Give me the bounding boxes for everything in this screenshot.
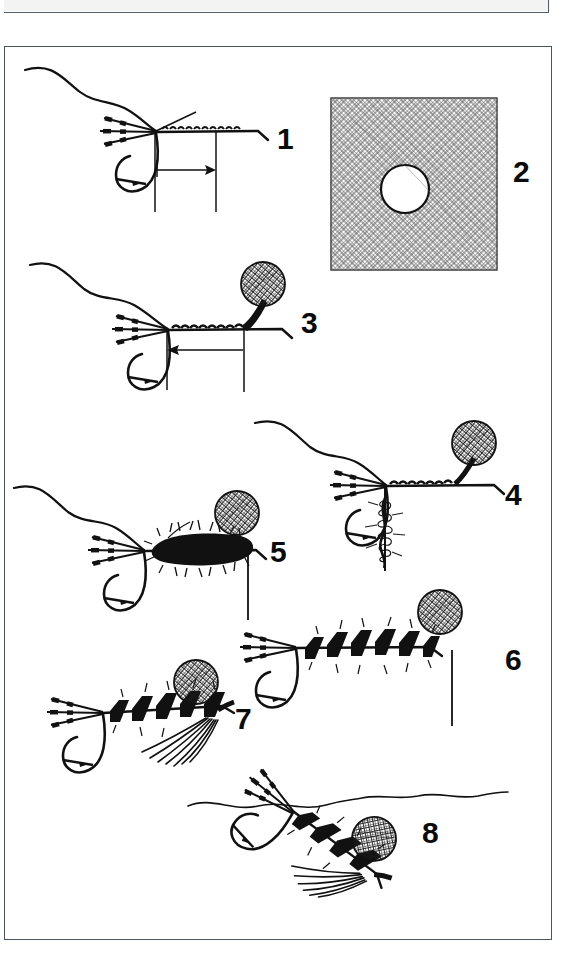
preceding-panel-fill [4, 0, 550, 11]
step-number-3: 3 [301, 308, 317, 338]
top-divider-rule-cap [548, 0, 549, 13]
step-number-6: 6 [505, 645, 521, 675]
step-number-5: 5 [270, 537, 286, 567]
figure-plate-border [4, 46, 552, 940]
page-root: 1 2 3 4 5 6 7 8 [0, 0, 578, 979]
step-number-8: 8 [422, 818, 438, 848]
step-number-2: 2 [513, 157, 529, 187]
top-divider-rule [4, 12, 549, 13]
step-number-7: 7 [235, 704, 251, 734]
step-number-1: 1 [277, 124, 293, 154]
step-number-4: 4 [505, 480, 521, 510]
